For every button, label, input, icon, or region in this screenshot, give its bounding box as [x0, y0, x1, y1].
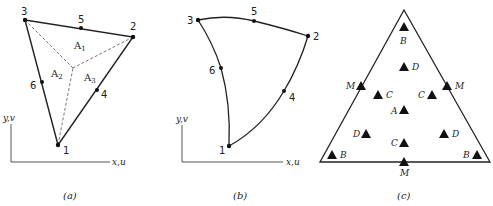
curved-triangle-outline: [198, 17, 308, 146]
node-1: [227, 144, 231, 148]
node-label-6: 6: [209, 65, 215, 76]
point-c-left: [373, 90, 383, 99]
panel-c: B D M C C M A D C D B B M (c): [320, 10, 490, 201]
area-label-a2: A2: [50, 68, 63, 81]
caption-a: (a): [63, 190, 77, 201]
area-label-a3: A3: [83, 72, 96, 85]
label-c-bottom: C: [391, 138, 398, 148]
point-b-right: [472, 150, 482, 159]
label-d-left: D: [352, 129, 360, 139]
point-c-right: [427, 90, 437, 99]
point-a-center: [399, 105, 409, 114]
node-3: [23, 18, 27, 22]
axes-a: [11, 124, 110, 162]
point-d-top: [399, 62, 409, 71]
label-b-top: B: [399, 36, 407, 46]
axis-x-label-a: x,u: [112, 157, 126, 167]
node-label-4: 4: [101, 89, 107, 100]
node-4: [282, 89, 286, 93]
node-label-3: 3: [187, 15, 193, 26]
axis-y-label-a: y,v: [2, 113, 15, 123]
point-m-right: [442, 81, 452, 90]
label-d-top: D: [411, 62, 419, 72]
node-label-4: 4: [289, 92, 295, 103]
node-3: [196, 18, 200, 22]
node-5: [252, 19, 256, 23]
point-b-left: [327, 150, 337, 159]
caption-c: (c): [397, 190, 411, 201]
label-m-left: M: [345, 81, 356, 91]
node-1: [56, 143, 60, 147]
node-label-1: 1: [219, 145, 225, 156]
node-6: [40, 80, 44, 84]
node-label-2: 2: [130, 21, 136, 32]
panel-b: 1 2 3 4 5 6 y,v x,u (b): [175, 6, 319, 201]
area-label-a1: A1: [73, 40, 86, 53]
edge-3-6-1: [198, 20, 229, 146]
point-c-bottom: [399, 138, 409, 147]
point-b-top: [399, 22, 409, 31]
label-b-right: B: [462, 150, 470, 160]
node-5: [79, 26, 83, 30]
edge-2-4-1: [229, 36, 308, 146]
node-label-2: 2: [313, 31, 319, 42]
label-m-bottom: M: [399, 168, 410, 178]
label-c-left: C: [386, 90, 393, 100]
node-6: [219, 66, 223, 70]
label-b-left: B: [339, 150, 347, 160]
panel-a: 1 2 3 4 5 6 A1 A2 A3 y,v x,u (a): [2, 6, 136, 201]
label-m-right: M: [454, 81, 465, 91]
point-d-left: [361, 129, 371, 138]
node-2: [131, 35, 135, 39]
axis-x-label-b: x,u: [286, 157, 300, 167]
label-a-center: A: [390, 106, 398, 116]
node-label-3: 3: [21, 6, 27, 17]
node-label-5: 5: [251, 6, 257, 17]
figure-canvas: 1 2 3 4 5 6 A1 A2 A3 y,v x,u (a): [0, 0, 493, 206]
caption-b: (b): [233, 190, 247, 201]
point-d-right: [439, 129, 449, 138]
node-label-1: 1: [63, 145, 69, 156]
node-label-6: 6: [30, 80, 36, 91]
node-2: [306, 34, 310, 38]
label-c-right: C: [418, 90, 425, 100]
label-d-right: D: [451, 129, 459, 139]
nodes-a: [23, 18, 135, 147]
node-4: [95, 88, 99, 92]
axis-y-label-b: y,v: [175, 114, 188, 124]
node-label-5: 5: [78, 14, 84, 25]
